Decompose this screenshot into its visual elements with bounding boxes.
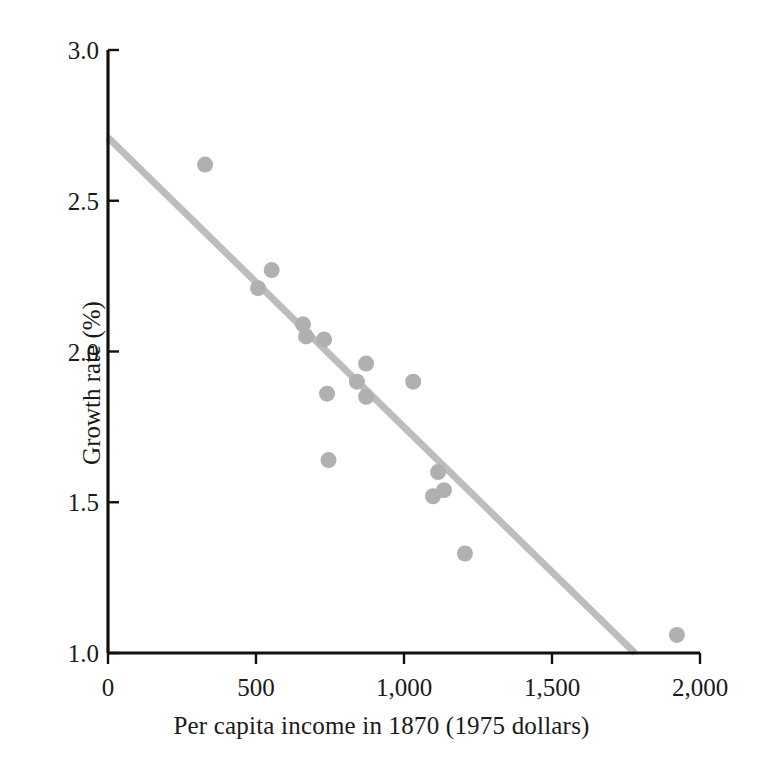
x-tick-label: 2,000 [672, 675, 728, 700]
data-point [298, 328, 314, 344]
plot-area [0, 0, 763, 765]
data-point [316, 331, 332, 347]
data-point [250, 280, 266, 296]
data-point [349, 374, 365, 390]
data-point [264, 262, 280, 278]
data-point [358, 389, 374, 405]
data-point [319, 386, 335, 402]
data-point [669, 627, 685, 643]
data-point [358, 356, 374, 372]
y-tick-label: 3.0 [35, 38, 99, 63]
data-point [405, 374, 421, 390]
x-axis-title: Per capita income in 1870 (1975 dollars) [0, 712, 763, 740]
x-tick-label: 1,000 [376, 675, 432, 700]
y-tick-label: 2.5 [35, 188, 99, 213]
y-axis-title: Growth rate (%) [78, 301, 106, 465]
data-point [436, 482, 452, 498]
scatter-chart: 1.01.52.02.53.0 05001,0001,5002,000 Per … [0, 0, 763, 765]
data-point [197, 157, 213, 173]
axis-lines [108, 50, 700, 664]
y-tick-label: 1.0 [35, 641, 99, 666]
data-point [321, 452, 337, 468]
x-tick-label: 0 [102, 675, 115, 700]
data-point [430, 464, 446, 480]
x-tick-label: 500 [237, 675, 275, 700]
data-points [197, 157, 685, 643]
data-point [457, 546, 473, 562]
x-tick-label: 1,500 [524, 675, 580, 700]
y-tick-label: 1.5 [35, 490, 99, 515]
